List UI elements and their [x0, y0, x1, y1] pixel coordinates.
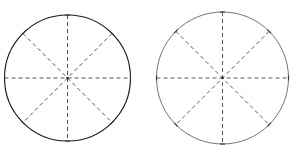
right-circle-center-dot — [221, 77, 223, 79]
right-circle-tick-3 — [174, 123, 178, 127]
left-circle-tick-1 — [110, 121, 114, 125]
left-circle-center-dot — [66, 77, 68, 79]
left-circle-tick-3 — [21, 121, 25, 125]
diagram-canvas: Two circles divided into eight equal sec… — [0, 0, 296, 157]
right-circle-tick-1 — [267, 123, 271, 127]
right-circle — [157, 12, 289, 144]
left-circle — [5, 15, 131, 141]
circles-diagram: Two circles divided into eight equal sec… — [0, 0, 296, 157]
